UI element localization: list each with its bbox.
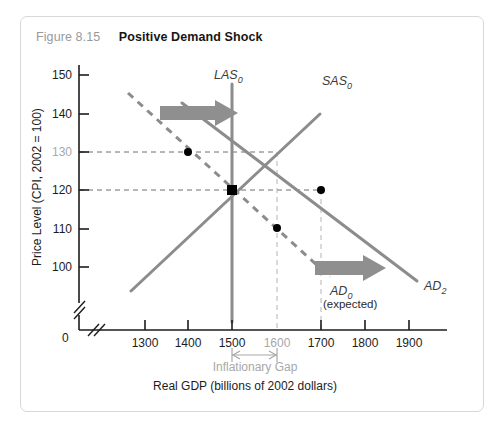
ad0-expected-note: (expected) — [323, 298, 377, 310]
y-axis-ticks — [79, 75, 89, 267]
sas0-curve — [131, 114, 320, 291]
data-point-1400-130 — [184, 148, 192, 156]
x-axis-title: Real GDP (billions of 2002 dollars) — [60, 379, 430, 393]
sas0-label: SAS0 — [322, 74, 352, 91]
data-point-1600-110 — [273, 224, 281, 232]
demand-shift-arrow-upper — [160, 100, 238, 126]
x-tick-label-1600: 1600 — [255, 336, 299, 350]
origin-label: 0 — [62, 331, 69, 345]
data-point-1500-120 — [227, 185, 237, 195]
ad2-curve — [182, 103, 417, 281]
x-tick-label-1900: 1900 — [387, 336, 431, 350]
demand-shift-arrow-lower — [315, 255, 386, 281]
las0-label: LAS0 — [214, 68, 243, 85]
y-axis-title: Price Level (CPI, 2002 = 100) — [30, 87, 44, 287]
ad2-label: AD2 — [424, 279, 446, 296]
x-tick-label-1700: 1700 — [299, 336, 343, 350]
x-tick-label-1500: 1500 — [210, 336, 254, 350]
x-tick-label-1300: 1300 — [123, 336, 167, 350]
x-tick-label-1400: 1400 — [166, 336, 210, 350]
data-point-1700-120 — [317, 186, 325, 194]
x-tick-label-1800: 1800 — [343, 336, 387, 350]
y-tick-label-150: 150 — [38, 68, 72, 82]
inflationary-gap-label: Inflationary Gap — [185, 360, 325, 374]
